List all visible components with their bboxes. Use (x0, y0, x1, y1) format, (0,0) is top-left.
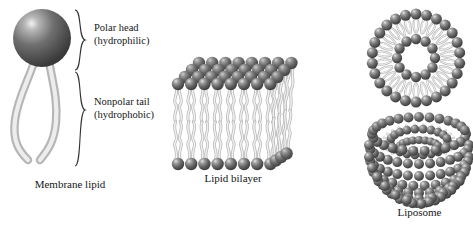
lipid-head-sphere (427, 43, 437, 53)
lipid-head-sphere (238, 158, 250, 170)
label-nonpolar-tail-line2: (hydrophobic) (94, 109, 154, 122)
lipid-head-sphere (447, 28, 458, 39)
lipid-head-sphere (401, 36, 411, 46)
lipid-head-sphere (425, 159, 435, 169)
lipid-head-sphere (403, 126, 412, 135)
lipid-head-sphere (419, 125, 428, 134)
panel-micelle-cross-section (360, 4, 473, 116)
lipid-head-sphere (420, 69, 430, 79)
lipid-head-sphere (251, 158, 263, 170)
lipid-head-sphere (372, 172, 382, 182)
caption-membrane-lipid: Membrane lipid (0, 178, 140, 191)
lipid-head-sphere (364, 152, 374, 162)
lipid-head-sphere (225, 78, 237, 90)
lipid-head-sphere (430, 53, 440, 63)
lipid-head-sphere (454, 47, 465, 58)
lipid-bilayer-drawing (170, 22, 320, 177)
lipid-head-sphere (385, 116, 395, 126)
lipid-head-sphere (198, 78, 210, 90)
panel-liposome: Liposome (366, 112, 473, 212)
label-nonpolar-tail-line1: Nonpolar tail (94, 96, 150, 107)
label-polar-head-line2: (hydrophilic) (94, 35, 149, 48)
lipid-head-sphere (390, 14, 401, 25)
nonpolar-tails (14, 56, 56, 160)
lipid-head-sphere (369, 37, 380, 48)
lipid-head-sphere (251, 78, 263, 90)
lipid-head-sphere (411, 34, 421, 44)
lipid-head-sphere (408, 146, 418, 156)
lipid-head-sphere (460, 125, 470, 135)
lipid-head-sphere (424, 112, 434, 122)
lipid-head-sphere (380, 181, 390, 191)
lipid-head-sphere (394, 62, 404, 72)
lipid-head-sphere (425, 171, 435, 181)
polar-head-sphere (13, 9, 71, 67)
lipid-head-sphere (172, 158, 184, 170)
micelle-drawing (360, 4, 473, 116)
lipid-head-sphere (454, 58, 465, 69)
caption-liposome: Liposome (372, 206, 467, 219)
bilayer-generated (172, 57, 298, 170)
lipid-head-sphere (391, 190, 401, 200)
lipid-head-sphere (404, 112, 414, 122)
lipid-head-sphere (264, 78, 276, 90)
lipid-head-sphere (411, 9, 422, 20)
lipid-head-sphere (400, 95, 411, 106)
lipid-head-sphere (397, 145, 407, 155)
lipid-head-sphere (411, 97, 422, 108)
lipid-head-sphere (392, 169, 402, 179)
micelle-generated (367, 9, 465, 108)
lipid-head-sphere (172, 78, 184, 90)
bracket-polar-head (75, 10, 85, 70)
lipid-head-sphere (445, 155, 455, 165)
lipid-head-sphere (364, 140, 374, 150)
lipid-head-sphere (434, 114, 444, 124)
lipid-head-sphere (211, 158, 223, 170)
lipid-head-sphere (367, 47, 378, 58)
lipid-head-sphere (431, 91, 442, 102)
lipid-head-sphere (392, 157, 402, 167)
lipid-head-sphere (369, 68, 380, 79)
lipid-head-sphere (394, 114, 404, 124)
lipid-head-sphere (280, 147, 292, 159)
lipid-head-sphere (436, 169, 446, 179)
panel-lipid-bilayer: Lipid bilayer (170, 22, 320, 182)
liposome-drawing (366, 112, 473, 208)
lipid-head-sphere (449, 140, 459, 150)
lipid-head-sphere (392, 53, 402, 63)
lipid-head-sphere (400, 10, 411, 21)
lipid-head-sphere (431, 145, 441, 155)
label-nonpolar-tail: Nonpolar tail (hydrophobic) (94, 96, 154, 121)
label-polar-head-line1: Polar head (94, 22, 139, 33)
lipid-head-sphere (452, 37, 463, 48)
bracket-group (72, 8, 94, 178)
lipid-head-sphere (421, 10, 432, 21)
lipid-head-sphere (421, 95, 432, 106)
lipid-structures-figure: Polar head (hydrophilic) Nonpolar tail (… (0, 0, 473, 238)
lipid-head-sphere (367, 163, 377, 173)
lipid-head-sphere (185, 158, 197, 170)
lipid-head-sphere (403, 159, 413, 169)
lipid-head-sphere (374, 77, 385, 88)
bracket-nonpolar-tail (75, 72, 85, 166)
lipid-head-sphere (185, 78, 197, 90)
lipid-head-sphere (387, 143, 397, 153)
lipid-head-sphere (436, 157, 446, 167)
lipid-head-sphere (225, 158, 237, 170)
lipid-head-sphere (402, 195, 412, 205)
lipid-head-sphere (441, 143, 451, 153)
lipid-head-sphere (238, 78, 250, 90)
lipid-head-sphere (211, 78, 223, 90)
panel-membrane-lipid: Polar head (hydrophilic) Nonpolar tail (… (0, 0, 175, 200)
lipid-head-sphere (442, 134, 451, 143)
lipid-head-sphere (452, 68, 463, 79)
lipid-head-sphere (414, 112, 424, 122)
label-polar-head: Polar head (hydrophilic) (94, 22, 149, 47)
lipid-head-sphere (414, 171, 424, 181)
lipid-head-sphere (414, 159, 424, 169)
caption-lipid-bilayer: Lipid bilayer (168, 172, 298, 185)
lipid-head-sphere (411, 72, 421, 82)
liposome-generated (364, 112, 473, 209)
lipid-head-sphere (198, 158, 210, 170)
lipid-head-sphere (403, 171, 413, 181)
